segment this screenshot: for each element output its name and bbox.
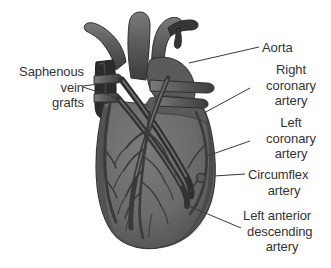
label-line: artery [248, 183, 320, 199]
label-line: vein [12, 80, 84, 96]
label-line: coronary [253, 78, 329, 94]
coronary-node [197, 174, 206, 183]
label-right-coronary-artery: Right coronary artery [253, 62, 329, 109]
label-line: artery [253, 146, 329, 162]
label-line: Circumflex [248, 167, 330, 183]
label-line: Saphenous [12, 64, 84, 80]
label-line: Aorta [262, 40, 293, 56]
label-aorta: Aorta [262, 40, 293, 56]
label-line: artery [253, 93, 329, 109]
label-circumflex-artery: Circumflex artery [248, 167, 330, 198]
label-line: Left anterior [243, 208, 331, 224]
heart-body-group [96, 96, 215, 249]
label-line: Right [253, 62, 329, 78]
pulmonary-trunk [128, 12, 150, 80]
label-left-anterior-descending-artery: Left anterior descending artery [243, 208, 331, 255]
label-left-coronary-artery: Left coronary artery [253, 115, 329, 162]
label-line: Left [253, 115, 329, 131]
label-line: artery [243, 239, 321, 255]
label-line: grafts [12, 95, 84, 111]
label-line: descending [243, 224, 331, 240]
label-line: coronary [253, 131, 329, 147]
label-saphenous-vein-grafts: Saphenous vein grafts [12, 64, 84, 111]
